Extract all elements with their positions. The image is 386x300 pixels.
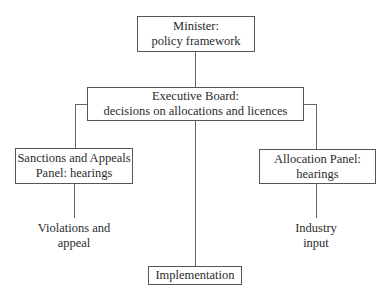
sanctions-panel-subtitle: Panel: hearings xyxy=(36,166,113,181)
edge-executive-allocation-h xyxy=(304,104,316,105)
violations-label: Violations and appeal xyxy=(24,221,124,251)
edge-executive-allocation-v xyxy=(316,104,317,149)
executive-board-box: Executive Board: decisions on allocation… xyxy=(87,87,304,121)
allocation-panel-box: Allocation Panel: hearings xyxy=(259,149,376,184)
edge-sanctions-violations xyxy=(74,184,75,218)
executive-board-subtitle: decisions on allocations and licences xyxy=(104,104,288,119)
allocation-panel-title: Allocation Panel: xyxy=(274,152,361,167)
industry-label: Industry input xyxy=(276,221,356,251)
edge-minister-executive xyxy=(195,52,196,87)
sanctions-panel-box: Sanctions and Appeals Panel: hearings xyxy=(15,148,133,184)
sanctions-panel-title: Sanctions and Appeals xyxy=(17,151,130,166)
implementation-title: Implementation xyxy=(155,268,234,283)
minister-title: Minister: xyxy=(173,19,219,34)
edge-executive-sanctions-h xyxy=(75,104,87,105)
industry-line2: input xyxy=(276,236,356,251)
minister-subtitle: policy framework xyxy=(151,34,240,49)
implementation-box: Implementation xyxy=(148,266,242,285)
industry-line1: Industry xyxy=(276,221,356,236)
edge-executive-sanctions-v xyxy=(75,104,76,148)
edge-allocation-industry xyxy=(316,184,317,218)
minister-box: Minister: policy framework xyxy=(137,16,255,52)
executive-board-title: Executive Board: xyxy=(152,89,239,104)
violations-line2: appeal xyxy=(24,236,124,251)
violations-line1: Violations and xyxy=(24,221,124,236)
edge-executive-implementation xyxy=(195,120,196,266)
allocation-panel-subtitle: hearings xyxy=(296,167,338,182)
